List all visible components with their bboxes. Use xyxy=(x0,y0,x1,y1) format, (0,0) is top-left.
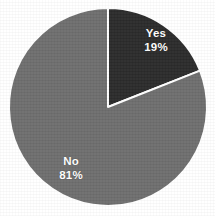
pie-chart: Yes 19% No 81% xyxy=(0,0,215,216)
pie-chart-svg xyxy=(0,0,215,216)
pie-slice-group xyxy=(9,8,207,206)
